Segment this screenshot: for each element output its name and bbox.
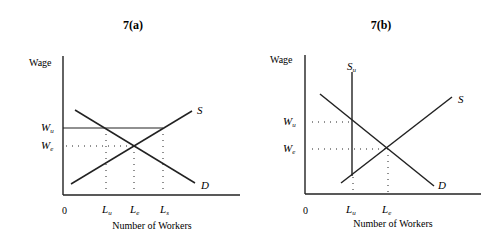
chart-title-b: 7(b) (371, 18, 392, 32)
demand-curve-a (75, 110, 195, 183)
supply-curve-b (341, 97, 452, 183)
demand-label-b: D (437, 179, 446, 191)
figure-canvas: 7(a) Wage S D Wu We 0 Lu Le Ls Number of… (0, 0, 503, 241)
supply-label-a: S (197, 104, 203, 116)
x-axis-label-a: Number of Workers (112, 220, 192, 231)
ls-label-a: Ls (159, 203, 169, 217)
chart-7b: 7(b) Wage Su S D Wu We 0 Lu Le Number of… (270, 18, 481, 229)
lu-label-a: Lu (101, 203, 112, 217)
demand-label-a: D (200, 179, 209, 191)
we-label-a: We (41, 139, 53, 153)
y-axis-label-b: Wage (270, 54, 293, 65)
lu-label-b: Lu (345, 203, 356, 217)
origin-label-b: 0 (303, 205, 308, 216)
le-label-b: Le (381, 203, 391, 217)
demand-curve-b (320, 94, 434, 186)
we-label-b: We (283, 142, 295, 156)
wu-label-b: Wu (283, 115, 296, 129)
y-axis-label-a: Wage (29, 57, 52, 68)
le-label-a: Le (129, 203, 139, 217)
chart-7a: 7(a) Wage S D Wu We 0 Lu Le Ls Number of… (29, 18, 240, 231)
origin-label-a: 0 (62, 205, 67, 216)
supply-label-b: S (458, 93, 464, 105)
supply-curve-a (71, 111, 192, 184)
chart-title-a: 7(a) (123, 18, 143, 32)
x-axis-label-b: Number of Workers (353, 218, 433, 229)
wu-label-a: Wu (41, 121, 54, 135)
su-label-b: Su (347, 60, 357, 74)
